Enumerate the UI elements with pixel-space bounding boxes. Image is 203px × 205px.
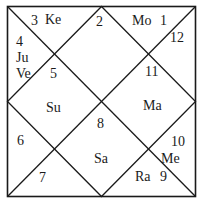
planet-venus: Ve xyxy=(16,67,31,81)
house-number-6: 6 xyxy=(17,134,24,148)
planet-jupiter: Ju xyxy=(16,51,28,65)
house-number-4: 4 xyxy=(16,35,23,49)
house-number-9: 9 xyxy=(160,170,167,184)
house-number-11: 11 xyxy=(145,65,158,79)
house-number-2: 2 xyxy=(96,15,103,29)
planet-rahu: Ra xyxy=(135,170,151,184)
house-number-5: 5 xyxy=(50,67,57,81)
house-number-12: 12 xyxy=(170,31,184,45)
planet-mars: Ma xyxy=(143,99,162,113)
planet-sun: Su xyxy=(46,101,61,115)
planet-ketu: Ke xyxy=(45,13,61,27)
planet-mercury: Me xyxy=(161,152,180,166)
planet-saturn: Sa xyxy=(94,152,108,166)
house-number-1: 1 xyxy=(160,14,167,28)
house-number-10: 10 xyxy=(171,135,185,149)
house-number-8: 8 xyxy=(97,117,104,131)
house-number-3: 3 xyxy=(31,14,38,28)
planet-moon: Mo xyxy=(132,14,151,28)
house-number-7: 7 xyxy=(39,171,46,185)
